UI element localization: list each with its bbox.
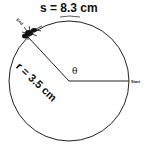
arc-length-label: s = 8.3 cm (40, 1, 98, 15)
ant-icon (22, 26, 42, 40)
start-label: Start (131, 79, 140, 84)
angle-label: θ (72, 66, 77, 76)
arc-underline (60, 16, 80, 17)
